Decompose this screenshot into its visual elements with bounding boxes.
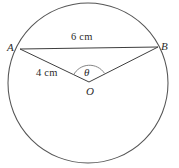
radius-segment-ob (89, 47, 158, 82)
chord-length-label: 6 cm (71, 32, 93, 43)
point-label-o: O (86, 86, 94, 97)
chord-segment-ab (20, 47, 158, 49)
point-label-b: B (161, 41, 168, 52)
geometry-figure: A B O θ 6 cm 4 cm (0, 0, 179, 168)
geometry-canvas (0, 0, 179, 168)
radius-length-label: 4 cm (36, 68, 58, 79)
point-label-a: A (7, 42, 14, 53)
circle-outline (8, 3, 168, 163)
angle-label-theta: θ (84, 67, 89, 78)
